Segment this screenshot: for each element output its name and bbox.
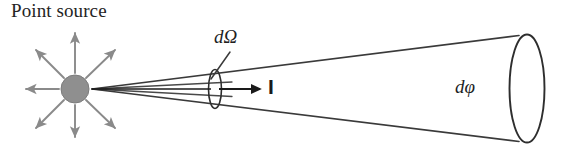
ray-up-left [36,50,64,78]
point-source-dot [61,75,89,103]
radiometry-diagram: Point source dΩ I dφ [0,0,564,160]
solid-angle-label: dΩ [214,27,237,46]
ray-up-right [86,50,115,78]
ray-down-left [36,100,64,128]
diagram-canvas [0,0,564,160]
cone-end-ellipse [510,35,545,143]
point-source-label: Point source [11,1,107,20]
flux-label: dφ [455,77,475,96]
domega-leader-line [211,52,230,79]
ray-down-right [86,100,115,128]
cone-axis-lower-inner [92,89,232,97]
cone-axis-upper-inner [92,82,232,89]
intensity-label: I [268,76,274,97]
